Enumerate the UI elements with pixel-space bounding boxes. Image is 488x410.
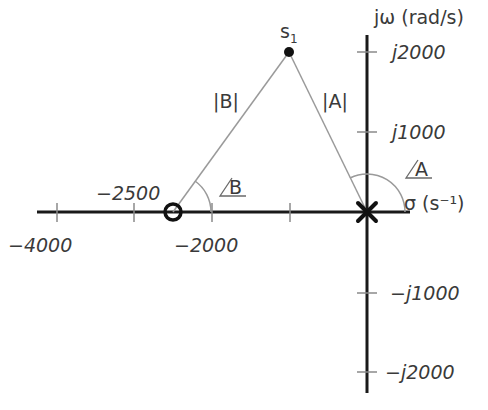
tick-label-minus-2000: −2000 xyxy=(174,236,238,255)
sigma-axis-label: σ (s⁻¹) xyxy=(404,194,464,213)
angle-B-arc xyxy=(195,181,211,212)
tick-label-j2000: j2000 xyxy=(392,43,446,62)
vector-A-magnitude-label: |A| xyxy=(322,92,348,111)
s1-label-base: s xyxy=(280,20,290,42)
vector-B-magnitude-label: |B| xyxy=(213,92,239,111)
s1-label-subscript: 1 xyxy=(290,32,298,46)
vector-A xyxy=(289,52,367,212)
s1-label: s1 xyxy=(280,22,298,45)
zero-label: −2500 xyxy=(96,184,160,203)
tick-label-minus-j1000: −j1000 xyxy=(390,284,460,303)
tick-label-minus-4000: −4000 xyxy=(8,236,72,255)
angle-B-label: B xyxy=(229,178,242,197)
tick-label-minus-j2000: −j2000 xyxy=(385,363,455,382)
jomega-axis-label: jω (rad/s) xyxy=(374,8,464,27)
angle-A-label: A xyxy=(415,160,428,179)
s1-point-icon xyxy=(284,47,294,57)
tick-label-j1000: j1000 xyxy=(392,123,446,142)
